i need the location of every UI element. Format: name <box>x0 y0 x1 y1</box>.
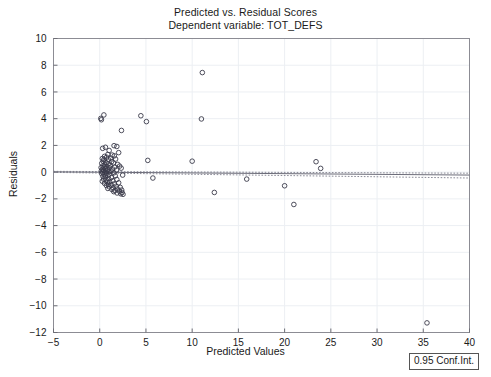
data-point <box>292 202 297 207</box>
confidence-interval-legend: 0.95 Conf.Int. <box>409 353 479 370</box>
data-point <box>212 190 217 195</box>
data-point <box>119 128 124 133</box>
data-point <box>244 177 249 182</box>
data-point <box>139 113 144 118</box>
y-tick-label: −2 <box>35 193 47 204</box>
data-point <box>116 150 121 155</box>
y-tick-label: −4 <box>35 220 47 231</box>
data-point <box>425 321 430 326</box>
data-point <box>151 176 156 181</box>
residual-scatter-chart: Predicted vs. Residual Scores Dependent … <box>0 0 491 377</box>
chart-title-block: Predicted vs. Residual Scores Dependent … <box>0 6 491 32</box>
y-tick-label: −6 <box>35 247 47 258</box>
y-tick-label: 4 <box>41 113 47 124</box>
data-point <box>120 173 125 178</box>
plot-area: 1086420−2−4−6−8−10−12−50510152025303540 <box>0 0 491 377</box>
data-point <box>314 159 319 164</box>
y-tick-label: 0 <box>41 167 47 178</box>
data-point <box>318 166 323 171</box>
chart-title: Predicted vs. Residual Scores <box>0 6 491 19</box>
y-tick-label: 6 <box>41 87 47 98</box>
data-point <box>200 70 205 75</box>
data-point <box>115 144 120 149</box>
chart-subtitle: Dependent variable: TOT_DEFS <box>0 19 491 32</box>
y-tick-label: 8 <box>41 60 47 71</box>
data-point <box>102 113 107 118</box>
y-tick-label: −8 <box>35 274 47 285</box>
data-layer <box>54 70 470 325</box>
y-tick-label: 2 <box>41 140 47 151</box>
y-tick-label: 10 <box>35 33 47 44</box>
y-tick-label: −12 <box>30 327 47 338</box>
y-axis-label: Residuals <box>7 129 19 219</box>
data-point <box>100 146 105 151</box>
y-tick-label: −10 <box>30 300 47 311</box>
